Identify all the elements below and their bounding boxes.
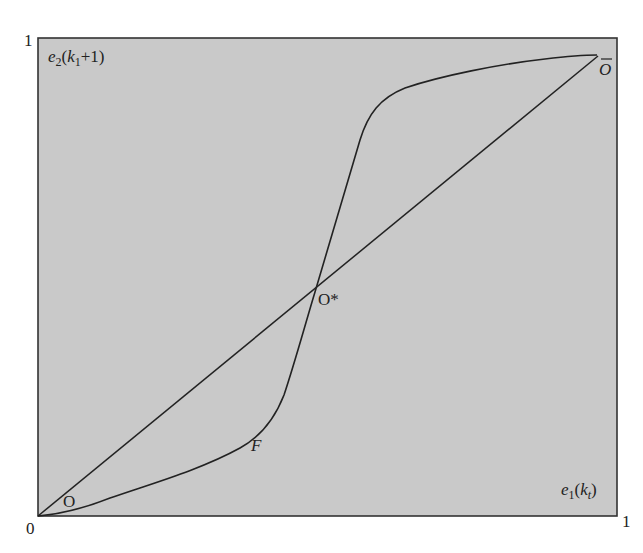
x-axis-label: e1(kt) — [561, 480, 597, 502]
phase-diagram: 1 0 1 e2(k1+1) e1(kt) O F O* O — [0, 0, 643, 553]
origin-label: 0 — [26, 519, 35, 538]
y-max-tick-label: 1 — [24, 31, 33, 50]
point-O-bar-label: O — [599, 60, 611, 79]
point-F-label: F — [250, 436, 262, 455]
point-O-label: O — [63, 492, 75, 511]
x-axis-label-close: ) — [591, 480, 597, 499]
y-axis-label-close: +1) — [81, 47, 105, 66]
x-max-tick-label: 1 — [622, 512, 631, 531]
point-O-star-label: O* — [318, 290, 339, 309]
